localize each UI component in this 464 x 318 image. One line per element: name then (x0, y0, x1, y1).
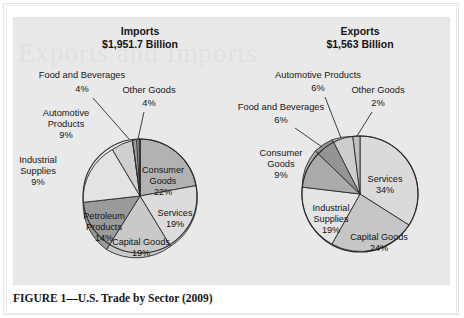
exports-title: Exports (340, 25, 379, 37)
imports-label-industrial-supplies-pct: 9% (31, 177, 44, 187)
imports-label-automotive-line1: Automotive (43, 108, 90, 118)
imports-label-food-pct: 4% (75, 84, 88, 94)
imports-label-petroleum-line2: Products (86, 222, 122, 232)
exports-label-capital-goods-pct: 24% (370, 243, 388, 253)
exports-label-consumer-goods-line2: Goods (267, 159, 295, 169)
imports-label-food-line1: Food and Beverages (39, 70, 126, 80)
figure-page: Exports and Imports Imports $1,951.7 Bil… (0, 0, 464, 318)
imports-title: Imports (121, 25, 160, 37)
exports-label-capital-goods-line1: Capital Goods (350, 232, 408, 242)
imports-label-capital-goods-line1: Capital Goods (112, 237, 170, 247)
exports-label-automotive-pct: 6% (311, 83, 324, 93)
imports-label-automotive-pct: 9% (59, 130, 72, 140)
exports-label-food-line1: Food and Beverages (238, 102, 325, 112)
exports-chart: Exports $1,563 Billion Services 34% Capi… (238, 25, 418, 253)
imports-chart: Imports $1,951.7 Billion (19, 25, 197, 258)
imports-label-consumer-goods-pct: 22% (154, 187, 172, 197)
imports-label-other-goods-pct: 4% (142, 98, 155, 108)
imports-label-consumer-goods-line1: Consumer (142, 165, 184, 175)
exports-label-automotive-line1: Automotive Products (275, 70, 361, 80)
imports-label-other-goods-line1: Other Goods (122, 85, 176, 95)
exports-label-consumer-goods-line1: Consumer (260, 148, 303, 158)
exports-subtitle: $1,563 Billion (326, 38, 393, 50)
imports-label-industrial-supplies-line2: Supplies (20, 166, 56, 176)
exports-label-food-pct: 6% (274, 115, 287, 125)
imports-label-automotive-line2: Products (48, 119, 85, 129)
exports-label-consumer-goods-pct: 9% (274, 170, 287, 180)
exports-label-services-pct: 34% (376, 185, 394, 195)
imports-label-industrial-supplies-line1: Industrial (19, 155, 57, 165)
exports-label-other-goods-line1: Other Goods (351, 85, 405, 95)
imports-label-consumer-goods-line2: Goods (150, 176, 177, 186)
imports-label-services-pct: 19% (166, 219, 184, 229)
exports-label-services-line1: Services (368, 174, 403, 184)
imports-label-petroleum-pct: 14% (95, 233, 113, 243)
imports-subtitle: $1,951.7 Billion (102, 38, 178, 50)
figure-caption: FIGURE 1—U.S. Trade by Sector (2009) (13, 292, 213, 304)
exports-label-industrial-pct: 19% (322, 225, 340, 235)
imports-label-services-line1: Services (158, 208, 193, 218)
exports-label-industrial-line1: Industrial (313, 203, 350, 213)
figure-artwork: Imports $1,951.7 Billion (0, 0, 464, 318)
imports-label-capital-goods-pct: 19% (132, 248, 150, 258)
exports-label-industrial-line2: Supplies (314, 214, 349, 224)
exports-label-other-goods-pct: 2% (371, 98, 384, 108)
imports-label-petroleum-line1: Petroleum (83, 211, 124, 221)
